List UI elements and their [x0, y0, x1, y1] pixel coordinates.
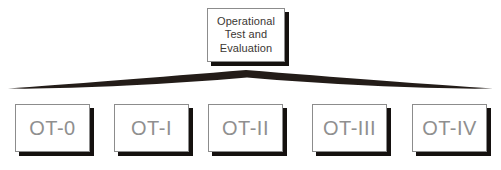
leaf-node-label: OT-I [131, 118, 172, 138]
root-node-label: Operational Test and Evaluation [217, 15, 275, 56]
leaf-node-label: OT-III [323, 118, 376, 138]
node-ot-iv[interactable]: OT-IV [412, 104, 487, 152]
leaf-node-label: OT-IV [422, 118, 477, 138]
node-ot-i[interactable]: OT-I [114, 104, 189, 152]
leaf-node-label: OT-II [222, 118, 269, 138]
org-chart-diagram: Operational Test and Evaluation OT-0 OT-… [0, 0, 501, 170]
brace-connector-svg [0, 60, 501, 100]
node-operational-test-and-evaluation[interactable]: Operational Test and Evaluation [207, 8, 285, 62]
brace-connector [0, 60, 501, 100]
leaf-node-label: OT-0 [29, 118, 75, 138]
node-ot-0[interactable]: OT-0 [15, 104, 90, 152]
node-ot-iii[interactable]: OT-III [312, 104, 387, 152]
brace-path [8, 70, 493, 89]
node-ot-ii[interactable]: OT-II [208, 104, 283, 152]
